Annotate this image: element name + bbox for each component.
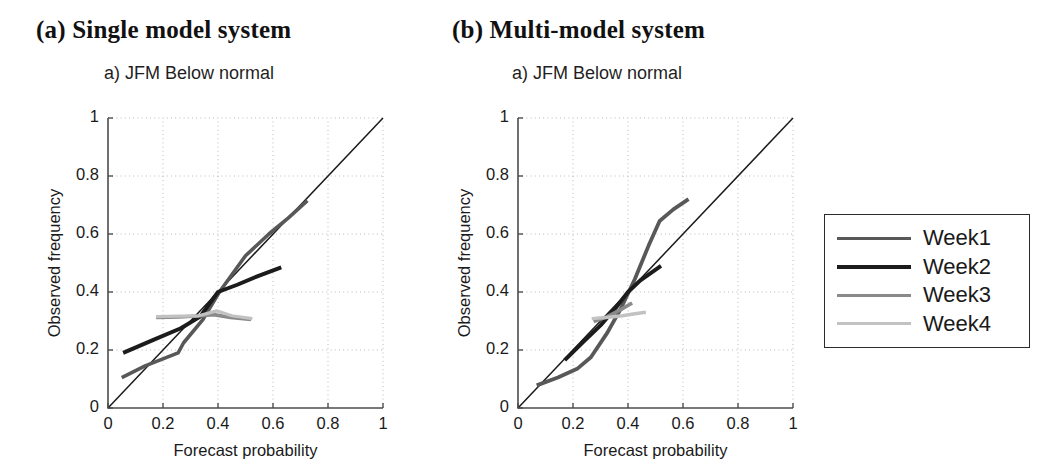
- legend-label: Week1: [923, 227, 991, 249]
- chart-svg-b: 00.20.40.60.8100.20.40.60.81Forecast pro…: [428, 96, 801, 463]
- panel-a-title: (a) Single model system: [36, 16, 291, 44]
- x-tick-label: 0: [103, 414, 112, 432]
- x-tick-label: 0.8: [317, 414, 340, 432]
- chart-panel-b: 00.20.40.60.8100.20.40.60.81Forecast pro…: [428, 96, 801, 463]
- x-tick-label: 0.4: [207, 414, 230, 432]
- x-tick-label: 1: [378, 414, 387, 432]
- y-tick-label: 1: [500, 107, 509, 125]
- x-tick-label: 0: [513, 414, 522, 432]
- legend-label: Week2: [923, 256, 991, 278]
- legend-item-week4[interactable]: Week4: [825, 310, 1029, 337]
- x-tick-label: 0.6: [262, 414, 285, 432]
- y-axis-title: Observed frequency: [455, 188, 473, 337]
- legend-swatch-week4: [837, 322, 911, 325]
- y-tick-label: 0: [500, 397, 509, 415]
- y-tick-label: 0: [90, 397, 99, 415]
- x-tick-label: 0.2: [562, 414, 585, 432]
- y-tick-label: 0.8: [76, 165, 99, 183]
- y-tick-label: 0.4: [76, 281, 99, 299]
- panel-b-title: (b) Multi-model system: [452, 16, 705, 44]
- x-tick-label: 0.8: [727, 414, 750, 432]
- legend-swatch-week3: [837, 294, 911, 297]
- x-axis-title: Forecast probability: [174, 441, 319, 459]
- y-tick-label: 0.6: [486, 223, 509, 241]
- y-tick-label: 0.2: [486, 339, 509, 357]
- legend-box: Week1Week2Week3Week4: [824, 214, 1030, 348]
- legend-item-week2[interactable]: Week2: [825, 253, 1029, 280]
- y-tick-label: 0.2: [76, 339, 99, 357]
- x-tick-label: 1: [788, 414, 797, 432]
- legend-swatch-week2: [837, 265, 911, 269]
- y-tick-label: 0.6: [76, 223, 99, 241]
- x-tick-label: 0.6: [672, 414, 695, 432]
- x-axis-title: Forecast probability: [584, 441, 729, 459]
- legend-label: Week3: [923, 284, 991, 306]
- legend-label: Week4: [923, 313, 991, 335]
- x-tick-label: 0.4: [617, 414, 640, 432]
- legend-item-week1[interactable]: Week1: [825, 225, 1029, 252]
- panel-a-subtitle: a) JFM Below normal: [104, 63, 274, 84]
- legend-item-week3[interactable]: Week3: [825, 282, 1029, 309]
- y-tick-label: 0.8: [486, 165, 509, 183]
- y-axis-title: Observed frequency: [45, 188, 63, 337]
- chart-svg-a: 00.20.40.60.8100.20.40.60.81Forecast pro…: [18, 96, 391, 463]
- reference-line-perfect-reliability: [518, 118, 793, 408]
- panel-b-subtitle: a) JFM Below normal: [512, 63, 682, 84]
- axis-ticks: 00.20.40.60.8100.20.40.60.81: [486, 107, 798, 432]
- axis-ticks: 00.20.40.60.8100.20.40.60.81: [76, 107, 388, 432]
- y-tick-label: 0.4: [486, 281, 509, 299]
- chart-panel-a: 00.20.40.60.8100.20.40.60.81Forecast pro…: [18, 96, 391, 463]
- legend-swatch-week1: [837, 237, 911, 240]
- series-line-week1: [122, 201, 308, 378]
- y-tick-label: 1: [90, 107, 99, 125]
- x-tick-label: 0.2: [152, 414, 175, 432]
- series-line-week2: [123, 267, 281, 353]
